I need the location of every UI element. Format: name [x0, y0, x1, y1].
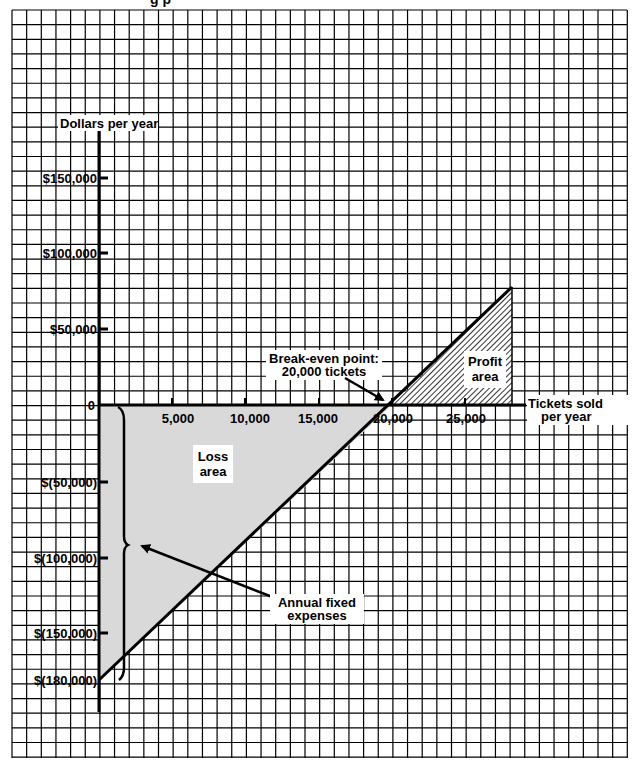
profit-label: area [472, 369, 500, 384]
y-tick-label: $(100,000) [34, 551, 97, 566]
x-tick-label: 15,000 [298, 411, 338, 426]
x-tick-label: 5,000 [162, 411, 195, 426]
y-axis-title: Dollars per year [60, 116, 158, 131]
y-tick-label: $(180,000) [34, 673, 97, 688]
title-fragment: g p [150, 0, 171, 7]
fixed-expenses-label: expenses [287, 608, 346, 623]
y-tick-label: $150,000 [43, 171, 97, 186]
loss-label: Loss [198, 449, 228, 464]
y-tick-label: $100,000 [43, 246, 97, 261]
break-even-chart: g p $150,000 $100,000 $50,000 0 $(50,000… [0, 0, 639, 775]
x-tick-label: 10,000 [230, 411, 270, 426]
breakeven-label: 20,000 tickets [282, 364, 367, 379]
y-tick-label: $(50,000) [41, 475, 97, 490]
x-axis-title-line2: per year [541, 409, 592, 424]
y-tick-label: $50,000 [50, 322, 97, 337]
x-tick-label: 25,000 [446, 411, 486, 426]
loss-label: area [200, 464, 228, 479]
y-tick-label: $(150,000) [34, 626, 97, 641]
y-tick-label: 0 [88, 398, 95, 413]
profit-label: Profit [468, 354, 503, 369]
x-tick-label: 20,000 [373, 411, 413, 426]
